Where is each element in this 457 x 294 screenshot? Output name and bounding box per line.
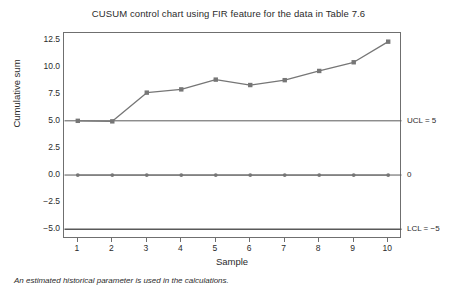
data-point-marker bbox=[145, 90, 149, 94]
data-point-marker bbox=[110, 173, 114, 177]
data-point-marker bbox=[76, 173, 80, 177]
data-point-marker bbox=[283, 173, 287, 177]
data-point-marker bbox=[317, 173, 321, 177]
data-point-marker bbox=[317, 69, 321, 73]
x-tick-label: 6 bbox=[234, 243, 264, 253]
data-point-marker bbox=[110, 119, 114, 123]
chart-footnote: An estimated historical parameter is use… bbox=[14, 276, 229, 285]
data-point-marker bbox=[283, 78, 287, 82]
reference-line-label-ucl: UCL = 5 bbox=[407, 115, 436, 124]
data-point-marker bbox=[248, 173, 252, 177]
data-point-marker bbox=[352, 60, 356, 64]
x-tick-label: 7 bbox=[269, 243, 299, 253]
data-point-marker bbox=[352, 173, 356, 177]
data-point-marker bbox=[76, 119, 80, 123]
data-point-marker bbox=[248, 83, 252, 87]
x-tick-label: 9 bbox=[338, 243, 368, 253]
series-line-0 bbox=[78, 42, 388, 122]
x-tick-label: 1 bbox=[62, 243, 92, 253]
reference-line-label-center: 0 bbox=[407, 170, 411, 179]
x-tick-label: 5 bbox=[200, 243, 230, 253]
x-tick-label: 8 bbox=[303, 243, 333, 253]
reference-line-label-lcl: LCL = −5 bbox=[407, 224, 440, 233]
plot-canvas bbox=[64, 33, 402, 239]
data-point-marker bbox=[386, 39, 390, 43]
x-tick-label: 3 bbox=[131, 243, 161, 253]
data-point-marker bbox=[214, 173, 218, 177]
x-axis-title: Sample bbox=[63, 256, 401, 267]
x-tick-label: 10 bbox=[372, 243, 402, 253]
data-point-marker bbox=[145, 173, 149, 177]
x-tick-label: 2 bbox=[96, 243, 126, 253]
cusum-control-chart-figure: CUSUM control chart using FIR feature fo… bbox=[0, 0, 457, 294]
data-point-marker bbox=[179, 173, 183, 177]
data-point-marker bbox=[214, 77, 218, 81]
data-point-marker bbox=[386, 173, 390, 177]
x-tick-label: 4 bbox=[165, 243, 195, 253]
plot-area bbox=[63, 32, 401, 238]
data-point-marker bbox=[179, 87, 183, 91]
